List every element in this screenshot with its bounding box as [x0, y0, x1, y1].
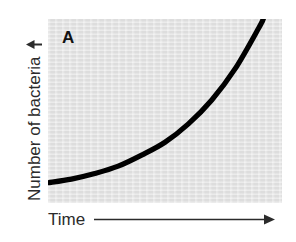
- plot-area: A: [48, 19, 282, 203]
- exponential-growth-curve: [48, 19, 263, 183]
- up-arrow-icon: [26, 38, 43, 51]
- x-axis-label-text: Time: [48, 211, 85, 228]
- y-axis-label: Number of bacteria: [19, 1, 49, 201]
- growth-curve-svg: [48, 19, 282, 203]
- x-axis-label: Time: [48, 206, 296, 232]
- panel-label: A: [62, 29, 75, 46]
- right-arrow-icon: [94, 213, 276, 226]
- bacterial-growth-figure: A Number of bacteria Time: [0, 0, 296, 242]
- y-axis-label-text: Number of bacteria: [26, 56, 43, 201]
